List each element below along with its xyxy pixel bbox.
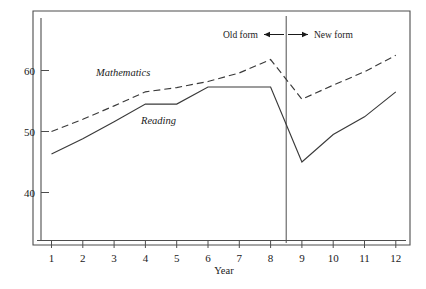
x-tick-label-12: 12 <box>390 252 401 264</box>
y-tick-label-50: 50 <box>24 126 36 138</box>
x-tick-marks <box>52 241 396 249</box>
x-tick-label-7: 7 <box>237 252 243 264</box>
series-line-reading <box>52 87 396 162</box>
left-arrow-icon <box>264 32 284 37</box>
y-tick-label-40: 40 <box>24 187 36 199</box>
series-label-mathematics: Mathematics <box>95 67 150 78</box>
x-tick-label-2: 2 <box>80 252 86 264</box>
x-tick-label-8: 8 <box>268 252 274 264</box>
x-tick-label-11: 11 <box>359 252 370 264</box>
x-tick-label-5: 5 <box>174 252 180 264</box>
right-arrow-icon <box>288 32 308 37</box>
new-form-label: New form <box>314 30 353 40</box>
y-tick-label-60: 60 <box>24 65 36 77</box>
x-axis-title: Year <box>214 265 234 276</box>
line-chart: 60 50 40 1 2 3 4 5 6 7 8 9 10 1 <box>0 0 426 289</box>
x-tick-label-3: 3 <box>111 252 117 264</box>
x-tick-label-6: 6 <box>205 252 211 264</box>
old-form-label: Old form <box>223 30 259 40</box>
y-tick-marks <box>41 71 49 193</box>
x-tick-label-4: 4 <box>143 252 149 264</box>
chart-container: 60 50 40 1 2 3 4 5 6 7 8 9 10 1 <box>0 0 426 289</box>
x-tick-label-1: 1 <box>49 252 55 264</box>
series-label-reading: Reading <box>140 115 176 126</box>
x-tick-label-9: 9 <box>299 252 305 264</box>
x-tick-label-10: 10 <box>328 252 340 264</box>
chart-frame <box>33 11 410 245</box>
